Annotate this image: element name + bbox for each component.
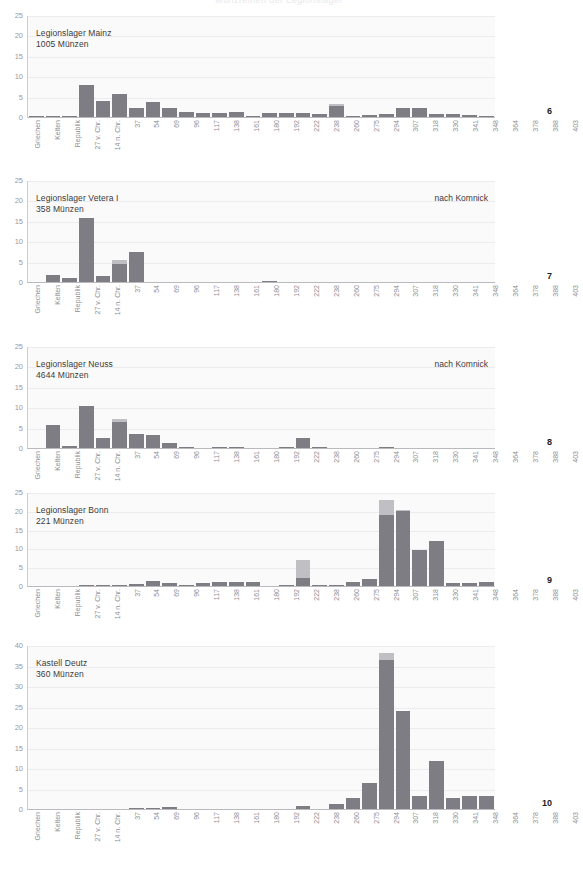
- bar-slot[interactable]: [395, 181, 412, 282]
- bar-slot[interactable]: [178, 493, 195, 586]
- bar-slot[interactable]: [478, 646, 495, 809]
- bar-slot[interactable]: [411, 347, 428, 448]
- bar-slot[interactable]: [228, 646, 245, 809]
- bar-slot[interactable]: [128, 181, 145, 282]
- bar-slot[interactable]: [261, 347, 278, 448]
- bar-slot[interactable]: [228, 181, 245, 282]
- bar-slot[interactable]: [278, 646, 295, 809]
- bar-slot[interactable]: [295, 493, 312, 586]
- bar-slot[interactable]: [445, 493, 462, 586]
- bar-slot[interactable]: [178, 646, 195, 809]
- bar-slot[interactable]: [428, 16, 445, 117]
- bar-slot[interactable]: [361, 181, 378, 282]
- bar-slot[interactable]: [161, 493, 178, 586]
- bar-slot[interactable]: [261, 16, 278, 117]
- bar-slot[interactable]: [228, 16, 245, 117]
- bar-slot[interactable]: [395, 493, 412, 586]
- bar-slot[interactable]: [428, 646, 445, 809]
- bar-slot[interactable]: [261, 646, 278, 809]
- bar-slot[interactable]: [328, 347, 345, 448]
- bar-slot[interactable]: [95, 646, 112, 809]
- bar-slot[interactable]: [411, 646, 428, 809]
- bar-slot[interactable]: [128, 493, 145, 586]
- bar-slot[interactable]: [145, 16, 162, 117]
- bar-slot[interactable]: [278, 181, 295, 282]
- bar-slot[interactable]: [128, 347, 145, 448]
- bar-slot[interactable]: [295, 347, 312, 448]
- bar-slot[interactable]: [345, 347, 362, 448]
- bar-slot[interactable]: [311, 646, 328, 809]
- bar-slot[interactable]: [228, 347, 245, 448]
- bar-slot[interactable]: [178, 181, 195, 282]
- bar-slot[interactable]: [145, 181, 162, 282]
- bar-slot[interactable]: [378, 347, 395, 448]
- bar-slot[interactable]: [445, 646, 462, 809]
- bar-slot[interactable]: [378, 493, 395, 586]
- bar-slot[interactable]: [328, 646, 345, 809]
- bar-slot[interactable]: [195, 646, 212, 809]
- bar-slot[interactable]: [295, 181, 312, 282]
- bar-slot[interactable]: [195, 493, 212, 586]
- bar-slot[interactable]: [328, 493, 345, 586]
- bar-slot[interactable]: [345, 181, 362, 282]
- bar-slot[interactable]: [345, 16, 362, 117]
- bar-slot[interactable]: [245, 493, 262, 586]
- bar-slot[interactable]: [261, 181, 278, 282]
- bar-slot[interactable]: [378, 646, 395, 809]
- bar-slot[interactable]: [461, 646, 478, 809]
- bar-slot[interactable]: [411, 16, 428, 117]
- bar-slot[interactable]: [245, 347, 262, 448]
- bar-slot[interactable]: [178, 347, 195, 448]
- bar-slot[interactable]: [311, 16, 328, 117]
- bar-slot[interactable]: [278, 347, 295, 448]
- bar-slot[interactable]: [128, 646, 145, 809]
- bar-slot[interactable]: [395, 646, 412, 809]
- bar-slot[interactable]: [345, 493, 362, 586]
- bar-slot[interactable]: [411, 181, 428, 282]
- bar-slot[interactable]: [195, 16, 212, 117]
- bar-slot[interactable]: [211, 16, 228, 117]
- bar-slot[interactable]: [478, 16, 495, 117]
- bar-slot[interactable]: [245, 16, 262, 117]
- bar-slot[interactable]: [378, 16, 395, 117]
- bar-slot[interactable]: [161, 646, 178, 809]
- bar-slot[interactable]: [211, 347, 228, 448]
- bar-slot[interactable]: [161, 181, 178, 282]
- bar-slot[interactable]: [261, 493, 278, 586]
- bar-slot[interactable]: [311, 347, 328, 448]
- bar-slot[interactable]: [111, 16, 128, 117]
- bar-slot[interactable]: [278, 16, 295, 117]
- bar-slot[interactable]: [395, 347, 412, 448]
- bar-slot[interactable]: [211, 181, 228, 282]
- bar-slot[interactable]: [111, 493, 128, 586]
- bar-slot[interactable]: [278, 493, 295, 586]
- bar-slot[interactable]: [211, 646, 228, 809]
- bar-slot[interactable]: [295, 16, 312, 117]
- bar-slot[interactable]: [328, 181, 345, 282]
- bar-slot[interactable]: [245, 181, 262, 282]
- bar-slot[interactable]: [361, 347, 378, 448]
- bar-slot[interactable]: [128, 16, 145, 117]
- bar-slot[interactable]: [311, 493, 328, 586]
- bar-slot[interactable]: [145, 646, 162, 809]
- bar-slot[interactable]: [361, 16, 378, 117]
- bar-slot[interactable]: [195, 181, 212, 282]
- bar-slot[interactable]: [411, 493, 428, 586]
- bar-slot[interactable]: [228, 493, 245, 586]
- bar-slot[interactable]: [295, 646, 312, 809]
- bar-slot[interactable]: [195, 347, 212, 448]
- bar-slot[interactable]: [245, 646, 262, 809]
- bar-slot[interactable]: [445, 16, 462, 117]
- bar-slot[interactable]: [311, 181, 328, 282]
- bar-slot[interactable]: [328, 16, 345, 117]
- bar-slot[interactable]: [345, 646, 362, 809]
- bar-slot[interactable]: [178, 16, 195, 117]
- bar-slot[interactable]: [211, 493, 228, 586]
- bar-slot[interactable]: [161, 347, 178, 448]
- bar-slot[interactable]: [361, 646, 378, 809]
- bar-slot[interactable]: [478, 493, 495, 586]
- bar-slot[interactable]: [145, 493, 162, 586]
- bar-slot[interactable]: [111, 347, 128, 448]
- bar-slot[interactable]: [395, 16, 412, 117]
- bar-slot[interactable]: [378, 181, 395, 282]
